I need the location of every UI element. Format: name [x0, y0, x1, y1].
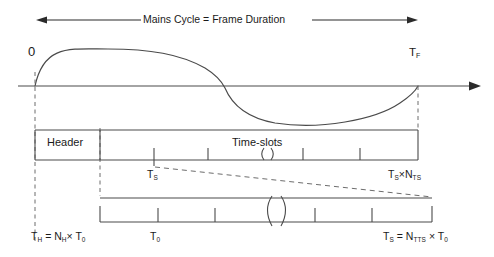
frame-bar-break-symbol-icon	[262, 148, 274, 160]
tsn-n-sub: TTS	[413, 236, 426, 243]
th-n-sub: H	[62, 236, 67, 243]
mains-sine-waveform	[35, 49, 418, 125]
t0-subscript: 0	[156, 236, 160, 243]
tsn-equals: =	[394, 230, 406, 242]
th-t0: T	[75, 230, 81, 242]
frame-bar-ticks	[154, 148, 360, 166]
mains-cycle-title: Mains Cycle = Frame Duration	[143, 14, 285, 25]
slot-bar-ticks	[158, 208, 372, 222]
th-n: N	[54, 230, 62, 242]
slot-total-label: TS×NTS	[388, 169, 421, 180]
arrow-right-head-icon	[407, 16, 418, 23]
base-period-label: T0	[150, 231, 160, 242]
frame-end-label: TF	[409, 47, 420, 59]
slot-start-label: TS	[147, 169, 158, 180]
frame-bar	[35, 130, 418, 166]
header-segment-label: Header	[47, 137, 83, 148]
tsn-times: ×	[426, 230, 438, 242]
tsnts-t-sub: S	[394, 174, 398, 181]
tf-base: T	[409, 46, 416, 58]
diagram-vector-layer	[0, 0, 494, 257]
axis-arrowhead-icon	[469, 82, 481, 91]
tf-subscript: F	[416, 52, 420, 60]
tsn-t-sub: S	[389, 236, 393, 243]
time-axis	[18, 82, 481, 91]
header-duration-label: TH = NH× T0	[31, 231, 86, 242]
slot-duration-label: TS = NTTS × T0	[383, 231, 448, 242]
timeslots-segment-label: Time-slots	[232, 137, 282, 148]
slot-bar	[100, 196, 432, 226]
origin-label: 0	[28, 45, 35, 58]
tsnts-n: N	[405, 168, 413, 180]
th-t-sub: H	[37, 236, 42, 243]
ts-subscript: S	[153, 174, 157, 181]
tsnts-n-sub: TS	[413, 174, 422, 181]
th-equals: =	[42, 230, 54, 242]
th-t0-sub: 0	[82, 236, 86, 243]
timing-diagram-canvas: Mains Cycle = Frame Duration 0 TF Header…	[0, 0, 494, 257]
tsn-t0-sub: 0	[444, 236, 448, 243]
